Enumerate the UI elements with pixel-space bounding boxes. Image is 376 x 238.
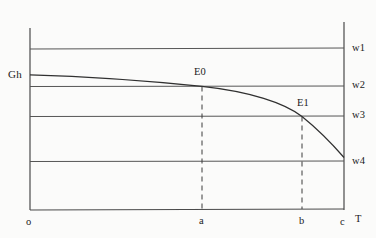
wage-line-w4 [30,161,344,162]
x-tick-label-b: b [299,215,304,226]
equilibrium-label-e0: E0 [194,66,206,77]
x-axis-label-t: T [355,213,362,224]
wage-line-w3 [30,116,344,117]
wage-line-w1 [30,48,344,49]
wage-line-w2 [30,86,344,87]
x-tick-label-o: o [26,216,31,227]
x-axis-line [30,209,344,210]
x-tick-label-a: a [199,215,204,226]
wage-label-w4: w4 [352,155,365,166]
y-axis-label-gh: Gh [8,69,22,80]
plot-canvas [0,0,376,238]
x-tick-label-c: c [340,216,345,227]
wage-label-w2: w2 [352,79,365,90]
economics-diagram-figure: Gh E0 E1 w1 w2 w3 w4 o a b c T [0,0,376,238]
wage-label-w3: w3 [352,109,365,120]
equilibrium-label-e1: E1 [297,97,309,108]
wage-label-w1: w1 [352,42,365,53]
